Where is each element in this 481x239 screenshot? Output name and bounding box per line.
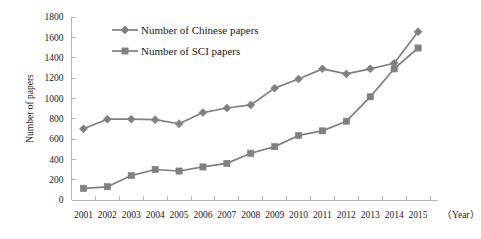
x-tick-label: 2008 xyxy=(241,210,260,220)
data-point-marker xyxy=(319,128,325,134)
series-line xyxy=(83,32,418,129)
y-tick-label: 1200 xyxy=(45,73,64,83)
y-tick-label: 0 xyxy=(59,195,64,205)
data-point-marker xyxy=(199,109,207,117)
x-tick-label: 2014 xyxy=(385,210,404,220)
x-tick-label: 2005 xyxy=(170,210,189,220)
data-point-marker xyxy=(79,125,87,133)
legend-item: Number of Chinese papers xyxy=(112,24,259,36)
data-point-marker xyxy=(122,48,128,54)
y-tick-label: 800 xyxy=(49,114,64,124)
data-point-marker xyxy=(223,104,231,112)
x-tick-label: 2015 xyxy=(409,210,428,220)
x-tick-label: 2011 xyxy=(313,210,332,220)
data-point-marker xyxy=(366,65,374,73)
data-point-marker xyxy=(128,173,134,179)
data-point-marker xyxy=(318,65,326,73)
legend-label: Number of SCI papers xyxy=(141,45,240,57)
data-point-marker xyxy=(200,164,206,170)
x-tick-label: 2004 xyxy=(146,210,165,220)
legend-label: Number of Chinese papers xyxy=(141,24,259,36)
y-axis-tick-marks xyxy=(72,17,76,200)
y-axis-tick-labels: 020040060080010001200140016001800 xyxy=(45,12,64,205)
x-axis-title: （Year） xyxy=(442,209,480,220)
x-tick-label: 2003 xyxy=(122,210,141,220)
x-tick-label: 2013 xyxy=(361,210,380,220)
y-tick-label: 200 xyxy=(49,175,64,185)
x-axis-tick-labels: 2001200220032004200520062007200820092010… xyxy=(74,210,428,220)
x-tick-label: 2006 xyxy=(193,210,212,220)
x-tick-label: 2010 xyxy=(289,210,308,220)
data-point-marker xyxy=(176,168,182,174)
y-tick-label: 400 xyxy=(49,155,64,165)
y-tick-label: 1000 xyxy=(45,94,64,104)
data-point-marker xyxy=(295,75,303,83)
x-tick-label: 2012 xyxy=(337,210,356,220)
data-point-marker xyxy=(415,45,421,51)
x-tick-label: 2009 xyxy=(265,210,284,220)
series-layer xyxy=(79,28,422,192)
data-point-marker xyxy=(224,160,230,166)
data-point-marker xyxy=(295,132,301,138)
data-point-marker xyxy=(248,150,254,156)
series-chinese-papers xyxy=(79,28,422,133)
x-tick-label: 2002 xyxy=(98,210,117,220)
data-point-marker xyxy=(175,120,183,128)
y-tick-label: 600 xyxy=(49,134,64,144)
x-tick-label: 2007 xyxy=(217,210,236,220)
data-point-marker xyxy=(272,144,278,150)
data-point-marker xyxy=(80,185,86,191)
data-point-marker xyxy=(103,115,111,123)
data-point-marker xyxy=(127,115,135,123)
y-tick-label: 1400 xyxy=(45,53,64,63)
legend-item: Number of SCI papers xyxy=(112,45,240,57)
data-point-marker xyxy=(152,166,158,172)
y-axis-title: Number of papers xyxy=(25,74,35,143)
x-axis-tick-marks xyxy=(72,196,431,200)
chart-canvas: 020040060080010001200140016001800 200120… xyxy=(0,0,481,239)
data-point-marker xyxy=(343,118,349,124)
data-point-marker xyxy=(104,184,110,190)
data-point-marker xyxy=(391,66,397,72)
data-point-marker xyxy=(121,26,129,34)
x-tick-label: 2001 xyxy=(74,210,93,220)
y-tick-label: 1800 xyxy=(45,12,64,22)
y-tick-label: 1600 xyxy=(45,33,64,43)
data-point-marker xyxy=(342,70,350,78)
data-point-marker xyxy=(151,116,159,124)
line-chart: 020040060080010001200140016001800 200120… xyxy=(0,0,481,239)
chart-legend: Number of Chinese papersNumber of SCI pa… xyxy=(112,24,259,57)
data-point-marker xyxy=(367,94,373,100)
